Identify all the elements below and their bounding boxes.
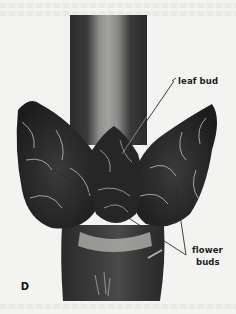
leaf-bud-label: leaf bud: [178, 76, 218, 86]
lower-stem: [61, 225, 164, 301]
scanned-page: leaf bud flower buds D: [0, 0, 236, 314]
flower-buds-label-line1: flower: [192, 245, 223, 255]
upper-stem: [70, 15, 147, 145]
bleed-through-text: [0, 304, 236, 309]
flower-buds-label-line2: buds: [196, 257, 220, 267]
plate-letter: D: [15, 279, 35, 295]
